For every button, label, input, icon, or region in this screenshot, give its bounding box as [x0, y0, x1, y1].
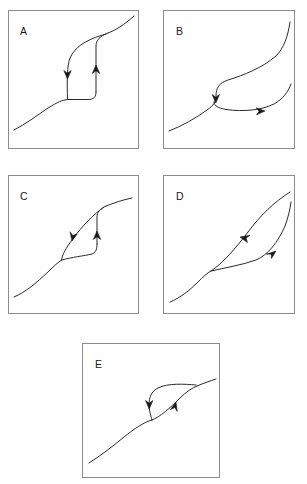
panel-e-label: E [95, 358, 102, 370]
panel-c: C [9, 176, 139, 314]
panel-a-curve-upper [108, 16, 134, 33]
panel-b: B [164, 11, 295, 149]
panel-b-label: B [176, 25, 183, 37]
panel-a-label: A [20, 25, 27, 37]
panel-a-curve-shelf [68, 92, 96, 100]
panel-d-curve-lower-tail [170, 271, 211, 302]
panel-d-down-arrow-icon [240, 235, 250, 242]
panel-e-curve-ascending-branch [152, 386, 197, 420]
panel-a-frame [9, 11, 139, 149]
panel-c-label: C [20, 190, 28, 202]
panel-a-curve-ascending-branch [96, 33, 108, 92]
panel-e-curve-upper [197, 379, 216, 386]
panel-e: E [83, 344, 220, 478]
panel-c-curve-lower [14, 260, 62, 297]
panel-d-label: D [176, 190, 184, 202]
panel-c-curve-upper [106, 198, 132, 206]
panel-e-curve-lower [89, 420, 152, 463]
panel-e-curve-descending-branch [149, 384, 196, 420]
panel-a-curve-lower [14, 100, 68, 131]
panel-b-curve-upper-branch [169, 22, 290, 131]
panel-c-frame [9, 176, 139, 314]
panel-d-curve-descending-branch [211, 192, 290, 271]
panel-d: D [164, 176, 295, 314]
panel-a: A [9, 11, 139, 149]
panel-e-frame [83, 344, 220, 478]
panel-b-curve-lower-branch [214, 84, 291, 111]
hysteresis-panels-figure: A B C [0, 0, 307, 484]
panel-a-curve-descending-branch [67, 34, 106, 100]
panel-c-down-arrow-icon [70, 232, 77, 241]
